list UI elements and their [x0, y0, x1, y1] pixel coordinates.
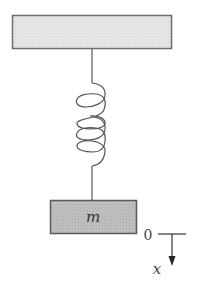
spring-mass-diagram: m 0 x [0, 0, 202, 290]
origin-label: 0 [144, 227, 153, 243]
x-axis-label: x [153, 260, 162, 278]
spring-coil [76, 83, 105, 166]
fixed-support [13, 16, 172, 49]
arrow-down-icon [169, 256, 176, 266]
mass-label: m [86, 208, 100, 226]
